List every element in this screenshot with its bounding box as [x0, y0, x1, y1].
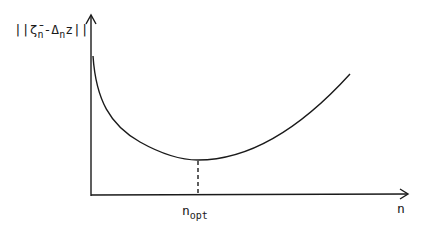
- n-opt-label: nopt: [182, 203, 208, 218]
- x-axis: [91, 194, 407, 195]
- error-curve: [93, 56, 350, 160]
- x-axis-label: n: [397, 201, 405, 216]
- y-axis-label: ||ζ̄n-Δnz||: [14, 22, 89, 37]
